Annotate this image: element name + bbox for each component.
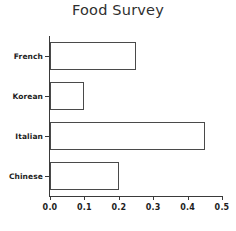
y-axis-tick-label: Korean [12,92,43,101]
x-axis-tick-mark [119,196,120,200]
bar-group: French [50,36,222,76]
bar [50,162,119,190]
x-axis-tick-label: 0.0 [43,203,58,212]
x-axis-tick-label: 0.4 [180,203,195,212]
bar [50,82,84,110]
chart-title: Food Survey [0,2,236,18]
bar-chart: Food Survey ChineseItalianKoreanFrench 0… [0,0,236,231]
x-axis-tick-mark [84,196,85,200]
x-axis-tick-mark [188,196,189,200]
x-axis-tick-mark [50,196,51,200]
bar-group: Italian [50,116,222,156]
x-axis-tick-label: 0.2 [111,203,126,212]
y-axis-tick-label: French [14,52,43,61]
y-axis-tick-label: Italian [15,132,43,141]
x-axis-tick-label: 0.3 [146,203,161,212]
bar-group: Chinese [50,156,222,196]
x-axis-tick-mark [222,196,223,200]
bar-group: Korean [50,76,222,116]
y-axis-tick-mark [45,136,50,137]
x-axis-tick-label: 0.5 [215,203,230,212]
y-axis-tick-label: Chinese [9,172,43,181]
y-axis-tick-mark [45,96,50,97]
x-axis-tick-mark [153,196,154,200]
bar [50,122,205,150]
bar [50,42,136,70]
x-axis-tick-label: 0.1 [77,203,92,212]
x-axis-line [49,196,223,197]
plot-area: ChineseItalianKoreanFrench [50,36,222,196]
y-axis-tick-mark [45,176,50,177]
y-axis-tick-mark [45,56,50,57]
